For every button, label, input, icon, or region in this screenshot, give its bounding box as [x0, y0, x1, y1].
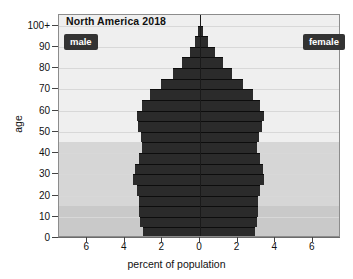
plot-area — [58, 14, 340, 237]
x-tick-mark — [199, 237, 200, 242]
y-tick-label: 90 — [39, 40, 50, 51]
bar-female-50-54 — [200, 121, 262, 132]
bar-male-75-79 — [173, 68, 200, 79]
x-tick-mark — [124, 237, 125, 242]
center-axis-line — [200, 15, 201, 236]
bar-male-10-14 — [139, 206, 200, 217]
bar-male-85-89 — [190, 47, 200, 58]
bar-female-75-79 — [200, 68, 232, 79]
x-tick-label: 6 — [83, 241, 89, 252]
bar-female-85-89 — [200, 47, 215, 58]
bar-male-55-59 — [137, 111, 200, 122]
bar-female-10-14 — [200, 206, 258, 217]
y-tick-label: 40 — [39, 147, 50, 158]
bar-male-35-39 — [139, 153, 200, 164]
bar-female-20-24 — [200, 185, 260, 196]
bar-male-30-34 — [135, 164, 200, 175]
y-tick-label: 100+ — [27, 19, 50, 30]
y-tick-label: 20 — [39, 189, 50, 200]
y-axis-label: age — [12, 94, 24, 154]
y-tick-label: 50 — [39, 125, 50, 136]
y-tick-label: 10 — [39, 210, 50, 221]
x-tick-label: 4 — [121, 241, 127, 252]
y-tick-label: 70 — [39, 83, 50, 94]
bar-female-5-9 — [200, 217, 257, 228]
population-pyramid-chart: age 0102030405060708090100+ North Americ… — [0, 0, 353, 279]
bar-female-0-4 — [200, 227, 255, 237]
bar-male-60-64 — [142, 100, 200, 111]
bar-female-30-34 — [200, 164, 263, 175]
bar-female-60-64 — [200, 100, 260, 111]
bar-male-40-44 — [142, 142, 200, 153]
y-tick-label: 80 — [39, 62, 50, 73]
x-axis-label: percent of population — [0, 258, 353, 270]
bar-female-35-39 — [200, 153, 260, 164]
x-tick-label: 6 — [309, 241, 315, 252]
bar-male-45-49 — [141, 132, 200, 143]
y-tick-label: 30 — [39, 168, 50, 179]
x-tick-mark — [237, 237, 238, 242]
bar-female-25-29 — [200, 174, 264, 185]
bar-male-5-9 — [140, 217, 200, 228]
bar-male-70-74 — [161, 79, 200, 90]
bar-female-55-59 — [200, 111, 264, 122]
x-tick-mark — [312, 237, 313, 242]
bar-female-65-69 — [200, 89, 253, 100]
bar-female-40-44 — [200, 142, 257, 153]
bar-male-80-84 — [182, 57, 200, 68]
x-tick-mark — [274, 237, 275, 242]
bar-male-50-54 — [138, 121, 200, 132]
x-tick-mark — [161, 237, 162, 242]
y-tick-label: 0 — [44, 232, 50, 243]
bar-male-25-29 — [133, 174, 200, 185]
y-tick-label: 60 — [39, 104, 50, 115]
bar-female-45-49 — [200, 132, 259, 143]
bar-male-20-24 — [137, 185, 200, 196]
bar-male-65-69 — [150, 89, 200, 100]
chart-title: North America 2018 — [66, 15, 166, 27]
x-tick-mark — [86, 237, 87, 242]
bar-female-80-84 — [200, 57, 223, 68]
bar-female-15-19 — [200, 196, 258, 207]
x-tick-label: 4 — [271, 241, 277, 252]
x-tick-label: 0 — [196, 241, 202, 252]
bar-male-15-19 — [139, 196, 200, 207]
bar-male-0-4 — [143, 227, 200, 237]
legend-female: female — [303, 34, 345, 50]
legend-male: male — [64, 34, 98, 50]
x-tick-label: 2 — [159, 241, 165, 252]
bar-female-90-94 — [200, 36, 208, 47]
bar-female-70-74 — [200, 79, 243, 90]
x-tick-label: 2 — [234, 241, 240, 252]
